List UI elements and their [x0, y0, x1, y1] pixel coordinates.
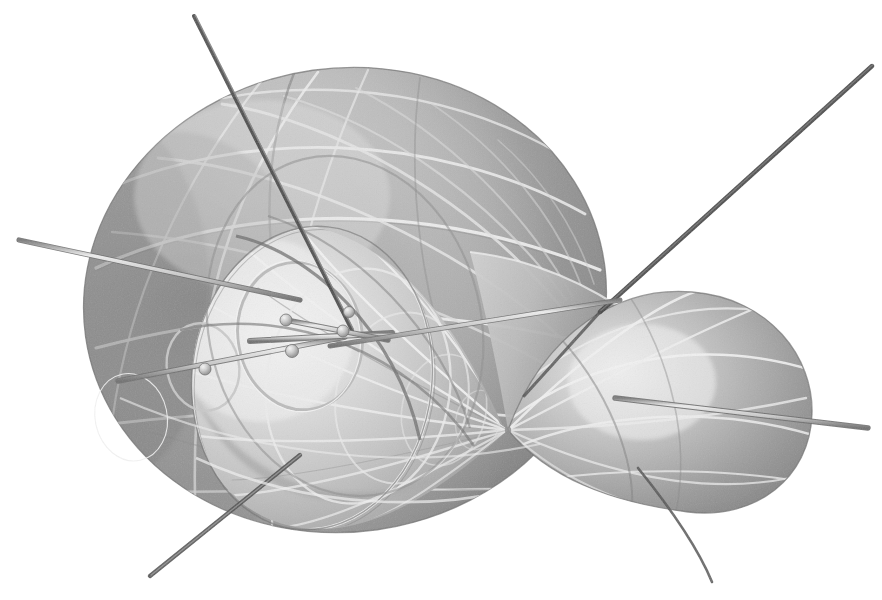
- surface-illustration: [0, 0, 882, 600]
- figure-canvas: Horn cyclide (inverted torus) surface mo…: [0, 0, 882, 600]
- pinch-point: [505, 427, 511, 433]
- bead-center: [286, 345, 299, 358]
- bead-right: [344, 307, 355, 318]
- bead-upper: [280, 314, 292, 326]
- bead-left: [199, 363, 211, 375]
- bead-upper-right: [337, 325, 349, 337]
